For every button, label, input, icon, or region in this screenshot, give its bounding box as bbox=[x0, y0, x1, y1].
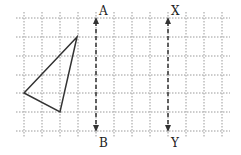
dotted-grid bbox=[16, 12, 230, 138]
line-xy: X Y bbox=[165, 4, 180, 150]
label-x: X bbox=[171, 4, 180, 18]
line-ab: A B bbox=[93, 4, 108, 150]
label-a: A bbox=[98, 4, 108, 18]
grid-diagram: A B X Y bbox=[0, 0, 241, 155]
label-b: B bbox=[99, 136, 108, 150]
label-y: Y bbox=[170, 136, 180, 150]
